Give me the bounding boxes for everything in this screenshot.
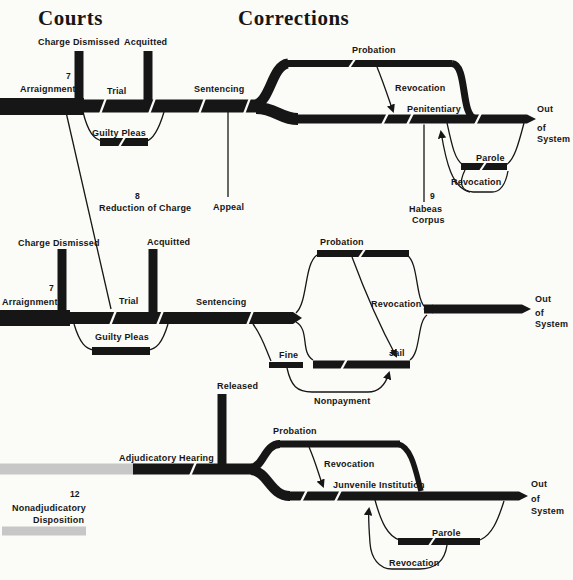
felony-footnote-7: 7 [66, 71, 71, 81]
juv-out-of-system-label-line3: System [531, 506, 564, 516]
felony-probation-revocation-arrow [377, 67, 393, 111]
misd-acquitted-label: Acquitted [147, 237, 190, 247]
felony-guilty-pleas-curve-right [146, 112, 164, 141]
felony-guilty-pleas-label: Guilty Pleas [92, 128, 146, 138]
felony-track: Charge Dismissed Acquitted 7 Arraignment… [0, 37, 570, 309]
misd-out-taper-right [522, 305, 531, 314]
felony-parole-label: Parole [476, 153, 505, 163]
juv-parole-label: Parole [432, 528, 461, 538]
juv-out-of-system-label-line2: of [531, 494, 541, 504]
felony-out-of-system-label-line2: of [537, 123, 547, 133]
felony-parole-curve-right [506, 123, 524, 165]
misd-guilty-pleas-curve-left [74, 324, 94, 350]
misd-out-of-system-label-line3: System [535, 319, 568, 329]
misd-out-of-system-label-line2: of [535, 308, 545, 318]
felony-arraignment-label: Arraignment [20, 84, 76, 94]
felony-footnote-8: 8 [135, 191, 140, 201]
misd-funnel-down-right [410, 315, 427, 360]
misd-guilty-pleas-curve-right [148, 324, 168, 350]
felony-out-of-system-label-line1: Out [537, 104, 553, 114]
misd-revocation-label: Revocation [371, 299, 422, 309]
juvenile-track: Released Adjudicatory Hearing 12 Nonadju… [0, 381, 564, 569]
flowchart-canvas: Charge Dismissed Acquitted 7 Arraignment… [0, 0, 573, 580]
felony-parole-revocation-label: Revocation [451, 177, 502, 187]
felony-trial-label: Trial [107, 86, 127, 96]
misd-footnote-7: 7 [49, 283, 54, 293]
misd-trial-label: Trial [119, 296, 139, 306]
misd-nonpayment-label: Nonpayment [314, 396, 371, 406]
juv-out-taper [519, 492, 528, 501]
juv-probation-revocation-label: Revocation [324, 459, 375, 469]
juv-probation-revocation-arrow [309, 447, 323, 486]
felony-sentencing-label: Sentencing [194, 84, 245, 94]
felony-out-taper [527, 115, 536, 124]
juv-parole-curve-left [375, 500, 400, 540]
misd-charge-dismissed-label: Charge Dismissed [18, 238, 100, 248]
felony-penitentiary-label: Penitentiary [407, 104, 461, 114]
felony-acquitted-label: Acquitted [124, 37, 167, 47]
felony-reduction-of-charge-label: Reduction of Charge [99, 203, 191, 213]
misd-funnel-up-left [296, 255, 317, 313]
juv-probation-label: Probation [273, 426, 317, 436]
juv-out-of-system-label-line1: Out [531, 479, 547, 489]
misdemeanor-track: Charge Dismissed Acquitted 7 Arraignment… [0, 237, 568, 406]
misd-guilty-pleas-label: Guilty Pleas [95, 332, 149, 342]
felony-probation-revocation-label: Revocation [395, 83, 446, 93]
felony-parole-curve-left [447, 123, 463, 165]
juv-institution-label: Junvenile Institution [333, 480, 425, 490]
juv-nonadjudicatory-label-line2: Disposition [33, 515, 84, 525]
juv-parole-curve-right [480, 501, 504, 540]
misd-arraignment-label: Arraignment [2, 297, 58, 307]
felony-split-up-bend [256, 64, 288, 105]
misd-funnel-down-left [296, 322, 313, 360]
misd-fine-label: Fine [279, 350, 298, 360]
juv-footnote-12: 12 [70, 489, 80, 499]
juv-split-down-bend [251, 470, 290, 496]
courts-heading: Courts [38, 6, 103, 30]
felony-habeas-label-line2: Corpus [412, 215, 445, 225]
misd-fine-curve [253, 324, 271, 361]
felony-probation-label: Probation [352, 45, 396, 55]
felony-habeas-label-line1: Habeas [409, 204, 442, 214]
felony-footnote-9: 9 [430, 191, 435, 201]
corrections-heading: Corrections [238, 6, 349, 30]
misd-jail-label: Jail [389, 348, 405, 358]
misd-out-of-system-label-line1: Out [535, 294, 551, 304]
felony-appeal-label: Appeal [213, 202, 244, 212]
misd-nonpayment-arrow [287, 368, 389, 392]
juv-nonadjudicatory-label-line1: Nonadjudicatory [12, 503, 86, 513]
criminal-justice-flowchart: Charge Dismissed Acquitted 7 Arraignment… [0, 0, 573, 580]
juv-adjudicatory-hearing-label: Adjudicatory Hearing [119, 453, 214, 463]
felony-out-of-system-label-line3: System [537, 134, 570, 144]
misd-sentencing-label: Sentencing [196, 297, 247, 307]
felony-split-down-bend [256, 108, 298, 119]
juv-split-up-bend [251, 444, 280, 468]
juv-parole-revocation-label: Revocation [389, 558, 440, 568]
misd-probation-label: Probation [320, 237, 364, 247]
felony-charge-dismissed-label: Charge Dismissed [38, 37, 120, 47]
juv-released-label: Released [217, 381, 258, 391]
